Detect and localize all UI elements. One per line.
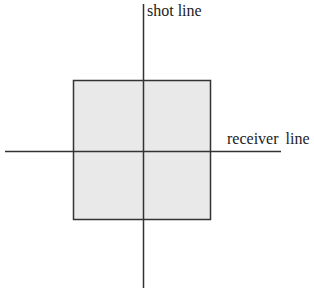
- diagram-canvas: [0, 0, 314, 294]
- receiver-line-label: receiver line: [227, 131, 310, 147]
- survey-square: [74, 81, 211, 220]
- shot-line-label: shot line: [147, 3, 202, 19]
